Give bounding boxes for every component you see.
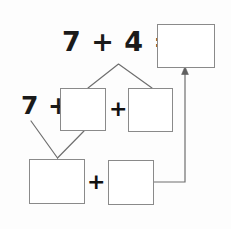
- answer-box-part-b[interactable]: [108, 160, 154, 205]
- worksheet-canvas: 7 + 4 = 7 + + +: [0, 0, 231, 229]
- branch-upper-connector: [88, 64, 152, 88]
- plus-sign-middle: +: [109, 98, 127, 120]
- branch-lower-left-path: [31, 121, 58, 158]
- branch-upper-path: [88, 64, 152, 88]
- answer-box-addend-b[interactable]: [128, 88, 173, 132]
- answer-box-addend-a[interactable]: [60, 88, 106, 131]
- plus-sign-bottom: +: [87, 171, 105, 193]
- answer-box-sum[interactable]: [157, 24, 215, 68]
- answer-box-part-a[interactable]: [29, 159, 85, 204]
- branch-lower-right-path: [58, 131, 85, 158]
